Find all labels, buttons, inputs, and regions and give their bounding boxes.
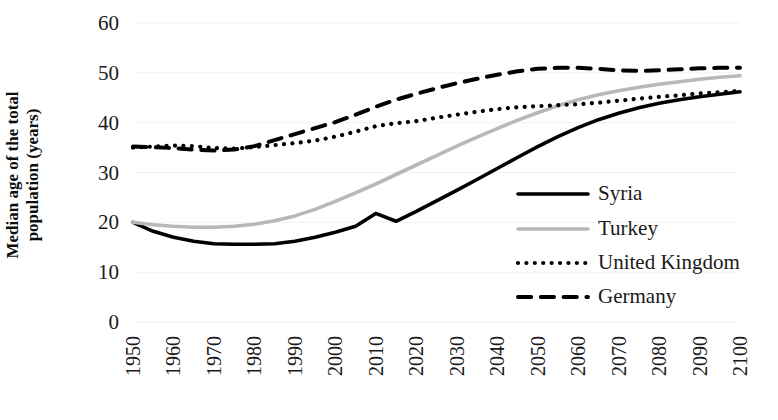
legend-label-united-kingdom[interactable]: United Kingdom — [598, 250, 740, 274]
chart-legend: SyriaTurkeyUnited KingdomGermany — [518, 181, 740, 308]
series-line-germany — [133, 68, 740, 151]
y-axis-tick-label: 30 — [98, 161, 119, 185]
legend-label-germany[interactable]: Germany — [598, 284, 677, 308]
x-axis-tick-label: 2050 — [527, 336, 549, 376]
x-axis-tick-labels: 1950196019701980199020002010202020302040… — [122, 336, 751, 376]
x-axis-tick-label: 2080 — [648, 336, 670, 376]
x-axis-tick-label: 2020 — [405, 336, 427, 376]
x-axis-tick-label: 1970 — [203, 336, 225, 376]
y-axis-tick-label: 20 — [98, 210, 119, 234]
x-axis-tick-label: 2060 — [567, 336, 589, 376]
x-axis-tick-label: 1990 — [284, 336, 306, 376]
x-axis-tick-label: 1960 — [162, 336, 184, 376]
y-axis-title: Median age of the totalpopulation (years… — [3, 91, 42, 258]
series-line-united-kingdom — [133, 91, 740, 149]
y-axis-tick-label: 0 — [109, 310, 120, 334]
y-axis-tick-label: 10 — [98, 260, 119, 284]
y-axis-tick-label: 60 — [98, 11, 119, 35]
x-axis-tick-label: 2040 — [486, 336, 508, 376]
x-axis-tick-label: 1980 — [243, 336, 265, 376]
x-axis-tick-label: 2070 — [608, 336, 630, 376]
y-axis-tick-labels: 0102030405060 — [98, 11, 119, 334]
x-axis-tick-label: 2090 — [689, 336, 711, 376]
x-axis-tick-label: 2100 — [729, 336, 751, 376]
x-axis-tick-label: 2010 — [365, 336, 387, 376]
gridlines — [133, 23, 740, 322]
y-axis-tick-label: 40 — [98, 111, 119, 135]
legend-label-turkey[interactable]: Turkey — [598, 216, 658, 240]
x-axis-tick-label: 2030 — [446, 336, 468, 376]
chart-container: 0102030405060 19501960197019801990200020… — [0, 0, 778, 420]
median-age-line-chart: 0102030405060 19501960197019801990200020… — [0, 0, 778, 420]
y-axis-tick-label: 50 — [98, 61, 119, 85]
x-axis-tick-label: 1950 — [122, 336, 144, 376]
legend-label-syria[interactable]: Syria — [598, 181, 643, 205]
x-axis-tick-label: 2000 — [324, 336, 346, 376]
